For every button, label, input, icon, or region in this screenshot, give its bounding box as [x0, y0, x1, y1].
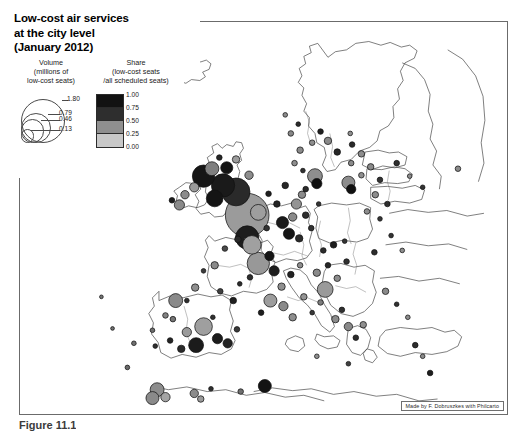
map-title-line-1: Low-cost air services [14, 11, 192, 26]
map-bubble [302, 212, 309, 219]
map-bubble [258, 380, 271, 393]
map-bubble [359, 172, 365, 178]
map-bubble [217, 289, 223, 295]
map-title-card: Low-cost air services at the city level … [6, 5, 200, 64]
map-bubble [318, 129, 324, 135]
map-title-line-3: (January 2012) [14, 40, 192, 55]
map-bubble [407, 174, 412, 179]
map-bubble [385, 201, 391, 207]
map-bubble [308, 225, 314, 231]
map-bubble [191, 284, 198, 291]
map-bubble [321, 248, 327, 254]
map-bubble [317, 282, 333, 298]
map-bubble [296, 122, 301, 127]
map-bubble [344, 322, 352, 330]
legend-volume-circle [21, 129, 34, 142]
map-bubble [178, 345, 185, 352]
map-bubble [195, 318, 213, 336]
map-bubble [167, 338, 173, 344]
map-bubble [346, 361, 351, 366]
map-bubble [288, 131, 294, 137]
map-bubble [235, 236, 242, 243]
map-bubble [269, 266, 279, 276]
map-bubble [420, 185, 425, 190]
legend-share-swatch [96, 133, 124, 148]
map-bubble [250, 204, 266, 220]
map-bubble [297, 147, 304, 154]
map-title-line-2: at the city level [14, 26, 192, 41]
map-bubble [394, 302, 399, 307]
map-bubble [455, 166, 461, 172]
map-credit-label: Made by F. Dobruszkes with Philcarto [401, 401, 504, 411]
map-bubble [283, 113, 288, 118]
map-bubble [372, 250, 378, 256]
map-bubble [377, 177, 383, 183]
legend-volume: Volume (millions of low-cost seats) 1.80… [12, 58, 90, 147]
map-bubble [211, 262, 218, 269]
map-bubble [334, 275, 341, 282]
legend-share-title-1: Share [90, 58, 182, 67]
map-bubble [169, 294, 183, 308]
map-bubble [378, 217, 383, 222]
legend-share-swatches: 1.000.750.500.250.00 [90, 90, 182, 160]
map-bubble [190, 183, 199, 192]
map-bubble [205, 162, 219, 176]
map-bubble [222, 246, 228, 252]
map-bubble [132, 341, 137, 346]
map-bubble [303, 186, 309, 192]
legend-volume-value: 1.80 [67, 95, 80, 102]
map-bubble [211, 315, 216, 320]
legend-share-value: 0.25 [126, 130, 139, 137]
map-bubble [185, 298, 190, 303]
legend-volume-title-1: Volume [12, 58, 90, 67]
map-bubble [265, 251, 274, 260]
map-bubble [367, 164, 374, 171]
map-bubble [217, 155, 223, 161]
legend-volume-tick [41, 120, 60, 121]
map-bubble [245, 171, 253, 179]
map-bubble [100, 295, 104, 299]
map-bubble [146, 392, 159, 405]
map-bubble [339, 307, 345, 313]
legend-volume-title-2: (millions of [12, 67, 90, 76]
map-bubble [174, 200, 184, 210]
map-bubble [372, 191, 379, 198]
map-bubble [289, 213, 297, 221]
figure-container: Made by F. Dobruszkes with Philcarto Low… [0, 0, 519, 435]
map-bubble [389, 233, 394, 238]
map-bubble [221, 162, 233, 174]
map-bubble [169, 198, 175, 204]
map-bubble [212, 334, 222, 344]
map-bubble [334, 149, 341, 156]
map-bubble [283, 228, 294, 239]
map-bubble [412, 342, 418, 348]
map-bubble [170, 316, 176, 322]
legend-volume-title-3: low-cost seats) [12, 76, 90, 85]
legend-share-value: 0.00 [126, 143, 139, 150]
map-bubble [234, 327, 240, 333]
map-bubble [278, 283, 285, 290]
map-bubble [198, 396, 205, 403]
map-bubble [297, 263, 303, 269]
map-bubble [358, 151, 365, 158]
figure-caption: Figure 11.1 [19, 419, 76, 435]
legend-share-value: 1.00 [126, 91, 139, 98]
map-bubble [348, 131, 353, 136]
map-bubble [394, 160, 400, 166]
legend-share-value: 0.50 [126, 117, 139, 124]
map-bubble [406, 315, 411, 320]
legend-volume-tick [31, 130, 60, 131]
map-bubble [288, 271, 295, 278]
map-bubble [420, 354, 425, 359]
map-bubble [301, 294, 308, 301]
map-legend: Volume (millions of low-cost seats) 1.80… [6, 58, 184, 178]
map-bubble [264, 225, 270, 231]
map-bubble [189, 338, 204, 353]
map-bubble [364, 209, 370, 215]
map-bubble [279, 302, 288, 311]
map-bubble [230, 297, 237, 304]
legend-share-value: 0.75 [126, 104, 139, 111]
map-bubble [324, 137, 331, 144]
map-bubble [243, 236, 262, 255]
map-bubble [318, 300, 324, 306]
